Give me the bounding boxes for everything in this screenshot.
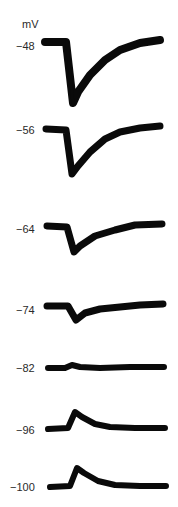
trace-48 <box>45 40 160 104</box>
trace-100 <box>50 468 166 487</box>
trace-96 <box>48 412 165 429</box>
trace-82 <box>48 365 164 368</box>
voltage-trace-figure: mV −48 −56 −64 −74 −82 −96 −100 <box>0 0 178 507</box>
traces-plot <box>0 0 178 507</box>
trace-74 <box>47 304 163 320</box>
trace-56 <box>46 126 160 174</box>
trace-64 <box>47 224 162 252</box>
